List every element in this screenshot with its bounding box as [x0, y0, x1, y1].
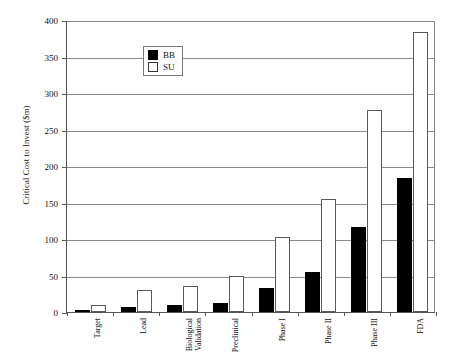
- x-tick: [205, 312, 206, 316]
- y-axis-tick-label: 50: [24, 272, 58, 282]
- x-tick: [113, 312, 114, 316]
- x-tick: [67, 312, 68, 316]
- bar-su: [413, 32, 428, 312]
- x-axis-tick-label: Phase III: [370, 318, 379, 354]
- x-axis-tick-label: Biological Validation: [185, 318, 203, 354]
- bar-chart: Critical Cost to Invest ($m) BB SU 05010…: [0, 0, 453, 354]
- y-axis-tick-label: 350: [24, 53, 58, 63]
- y-axis-tick-label: 0: [24, 308, 58, 318]
- bar-group: [67, 21, 436, 312]
- legend-item-bb: BB: [148, 50, 175, 60]
- x-tick: [390, 312, 391, 316]
- y-axis-tick-label: 100: [24, 235, 58, 245]
- legend-swatch-su-icon: [148, 62, 158, 72]
- x-axis-tick-label: Preclinical: [231, 318, 240, 354]
- legend: BB SU: [143, 46, 183, 76]
- legend-item-su: SU: [148, 62, 175, 72]
- x-tick: [252, 312, 253, 316]
- x-tick: [436, 312, 437, 316]
- x-tick: [344, 312, 345, 316]
- x-axis-tick-label: Lead: [139, 318, 148, 354]
- x-axis-tick-label: Phase II: [324, 318, 333, 354]
- x-axis-tick-label: FDA: [416, 318, 425, 354]
- x-axis-tick-label: Phase I: [278, 318, 287, 354]
- x-tick: [298, 312, 299, 316]
- y-axis-tick-label: 250: [24, 126, 58, 136]
- legend-label-bb: BB: [163, 50, 175, 60]
- y-axis-tick-label: 200: [24, 162, 58, 172]
- legend-swatch-bb-icon: [148, 50, 158, 60]
- y-axis-tick-label: 400: [24, 16, 58, 26]
- bar-bb: [397, 178, 412, 312]
- y-axis-tick-label: 300: [24, 89, 58, 99]
- plot-area: BB SU: [66, 21, 435, 313]
- x-axis-tick-label: Target: [93, 318, 102, 354]
- x-tick: [159, 312, 160, 316]
- legend-label-su: SU: [163, 62, 175, 72]
- y-axis-tick-label: 150: [24, 199, 58, 209]
